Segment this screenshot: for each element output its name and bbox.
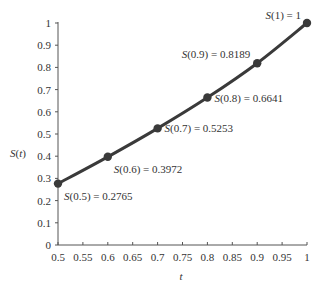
y-tick-label: 0.8 — [37, 61, 51, 73]
y-axis-ticks: 00.10.20.30.40.50.60.70.80.91 — [37, 17, 58, 251]
x-tick-label: 0.8 — [201, 251, 215, 263]
data-point-marker — [153, 124, 161, 132]
y-tick-label: 0.5 — [37, 128, 51, 140]
point-annotation: S(0.6) = 0.3972 — [114, 163, 183, 176]
y-tick-label: 0.7 — [37, 84, 51, 96]
x-tick-label: 0.9 — [250, 251, 264, 263]
x-tick-label: 1 — [304, 251, 310, 263]
data-point-marker — [303, 19, 311, 27]
x-tick-label: 0.55 — [73, 251, 93, 263]
x-tick-label: 0.6 — [101, 251, 115, 263]
y-tick-label: 0.1 — [37, 217, 51, 229]
y-axis-label: S(t) — [10, 147, 26, 160]
x-tick-label: 0.85 — [223, 251, 243, 263]
x-tick-label: 0.95 — [272, 251, 292, 263]
x-axis-label: t — [179, 270, 183, 282]
point-annotation: S(0.9) = 0.8189 — [182, 48, 251, 61]
y-tick-label: 1 — [46, 17, 52, 29]
x-tick-label: 0.75 — [173, 251, 193, 263]
point-annotations: S(0.5) = 0.2765S(0.6) = 0.3972S(0.7) = 0… — [64, 9, 301, 203]
data-point-marker — [253, 59, 261, 67]
y-tick-label: 0 — [46, 239, 52, 251]
y-tick-label: 0.3 — [37, 172, 51, 184]
point-annotation: S(0.5) = 0.2765 — [64, 190, 133, 203]
y-tick-label: 0.2 — [37, 195, 51, 207]
y-tick-label: 0.9 — [37, 39, 51, 51]
point-annotation: S(0.7) = 0.5253 — [165, 122, 234, 135]
point-annotation: S(1) = 1 — [265, 9, 301, 22]
data-point-marker — [104, 153, 112, 161]
line-chart: 00.10.20.30.40.50.60.70.80.91 0.50.550.6… — [0, 0, 328, 293]
x-tick-label: 0.65 — [123, 251, 143, 263]
y-tick-label: 0.4 — [37, 150, 51, 162]
x-tick-label: 0.5 — [51, 251, 65, 263]
data-point-marker — [203, 93, 211, 101]
data-point-marker — [54, 179, 62, 187]
y-tick-label: 0.6 — [37, 106, 51, 118]
point-annotation: S(0.8) = 0.6641 — [214, 92, 283, 105]
x-tick-label: 0.7 — [151, 251, 165, 263]
